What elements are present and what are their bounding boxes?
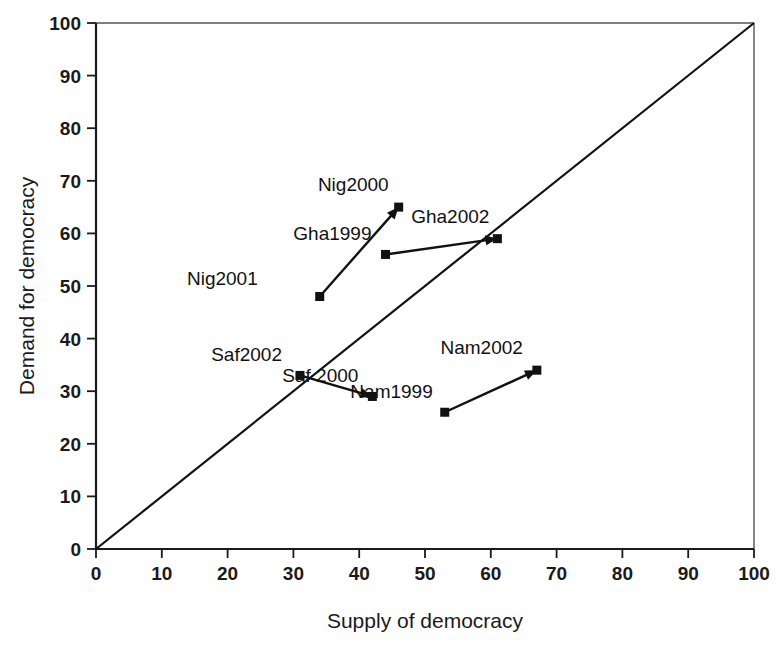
x-tick-label: 0: [91, 563, 102, 584]
x-tick-label: 20: [217, 563, 238, 584]
data-point-label: Gha2002: [411, 206, 489, 227]
data-point-label: Nam2002: [440, 337, 522, 358]
y-tick-label: 70: [60, 171, 81, 192]
data-marker: [394, 203, 403, 212]
y-tick-label: 30: [60, 381, 81, 402]
y-tick-label: 100: [49, 13, 81, 34]
y-tick-label: 90: [60, 66, 81, 87]
figure-background: [0, 0, 783, 658]
data-point-label: Nig2000: [318, 174, 389, 195]
x-tick-label: 70: [546, 563, 567, 584]
data-marker: [493, 234, 502, 243]
data-point-label: Saf 2000: [282, 365, 358, 386]
y-tick-label: 60: [60, 223, 81, 244]
data-marker: [532, 366, 541, 375]
x-tick-label: 80: [612, 563, 633, 584]
data-point-label: Nig2001: [187, 268, 258, 289]
y-tick-label: 40: [60, 329, 81, 350]
x-tick-label: 90: [678, 563, 699, 584]
y-tick-label: 80: [60, 118, 81, 139]
data-point-label: Gha1999: [293, 223, 371, 244]
x-tick-label: 50: [414, 563, 435, 584]
x-tick-label: 30: [283, 563, 304, 584]
x-tick-label: 60: [480, 563, 501, 584]
y-tick-label: 50: [60, 276, 81, 297]
data-point-label: Nam1999: [350, 381, 432, 402]
y-tick-label: 10: [60, 486, 81, 507]
data-marker: [381, 250, 390, 259]
x-tick-label: 10: [151, 563, 172, 584]
x-axis-title: Supply of democracy: [327, 609, 524, 632]
data-marker: [315, 292, 324, 301]
y-axis-title: Demand for democracy: [15, 176, 38, 395]
x-tick-label: 100: [738, 563, 770, 584]
y-tick-label: 20: [60, 434, 81, 455]
x-tick-label: 40: [349, 563, 370, 584]
y-tick-label: 0: [70, 539, 81, 560]
scatter-plot-canvas: 0102030405060708090100 01020304050607080…: [0, 0, 783, 658]
data-marker: [440, 408, 449, 417]
chart-figure: 0102030405060708090100 01020304050607080…: [0, 0, 783, 658]
data-point-label: Saf2002: [211, 344, 282, 365]
